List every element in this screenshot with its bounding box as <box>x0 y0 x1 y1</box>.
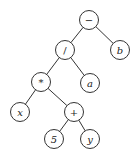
node-div: / <box>56 41 75 60</box>
node-label: b <box>117 45 123 56</box>
node-label: y <box>86 134 93 145</box>
edge-div-mul <box>47 58 60 75</box>
node-plus: + <box>65 103 84 122</box>
node-label: a <box>87 78 93 89</box>
expression-tree-diagram: −/b*ax+5y <box>0 0 133 157</box>
edge-plus-five <box>60 120 69 132</box>
edge-mul-plus <box>48 88 67 105</box>
node-label: − <box>85 15 93 26</box>
node-a: a <box>81 74 100 93</box>
node-y: y <box>81 130 100 149</box>
node-label: + <box>70 107 78 118</box>
node-label: x <box>17 107 23 118</box>
edge-div-a <box>71 58 85 76</box>
tree-nodes: −/b*ax+5y <box>11 11 130 149</box>
node-label: * <box>39 77 44 88</box>
edge-plus-y <box>79 120 85 131</box>
node-x: x <box>11 103 30 122</box>
node-mul: * <box>32 73 51 92</box>
node-minus: − <box>80 11 99 30</box>
node-b: b <box>111 41 130 60</box>
node-five: 5 <box>45 130 64 149</box>
edge-mul-x <box>25 90 35 104</box>
edge-minus-div <box>71 27 83 42</box>
edge-minus-b <box>96 27 113 44</box>
node-label: 5 <box>51 134 57 145</box>
